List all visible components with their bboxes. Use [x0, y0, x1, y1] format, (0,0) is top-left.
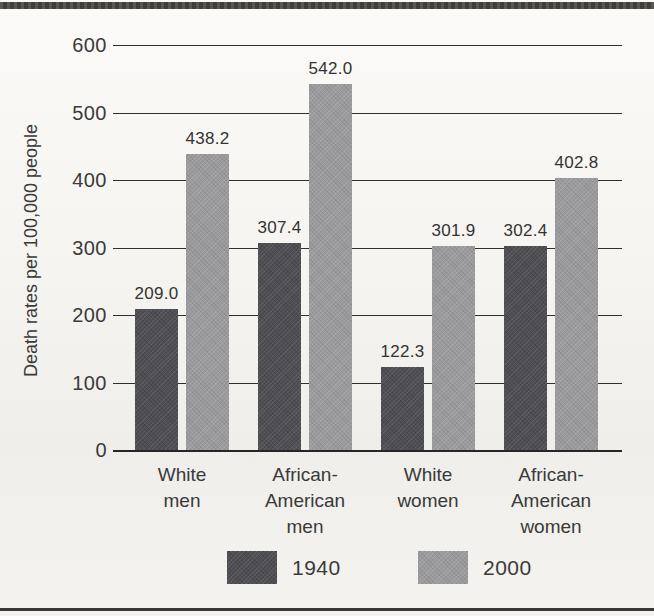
x-category-label-3: African-Americanwomen	[481, 462, 621, 540]
x-category-label-line: African-	[235, 462, 375, 488]
x-category-label-line: White	[112, 462, 252, 488]
y-tick-label-300: 300	[45, 237, 107, 260]
legend-item-1940: 1940	[227, 551, 341, 584]
bar-1940-white-men	[135, 309, 178, 450]
x-axis-baseline	[113, 450, 622, 452]
bar-2000-white-men	[186, 154, 229, 450]
gridline-600	[113, 45, 622, 46]
x-category-label-1: African-Americanmen	[235, 462, 375, 540]
scanned-chart-page: Death rates per 100,000 people 010020030…	[0, 0, 654, 616]
x-category-label-line: women	[481, 514, 621, 540]
y-tick-label-500: 500	[45, 102, 107, 125]
bar-2000-african-american-men	[309, 84, 352, 450]
bar-1940-african-american-women	[504, 246, 547, 450]
value-label-1940-2: 122.3	[365, 342, 440, 362]
value-label-2000-2: 301.9	[416, 221, 491, 241]
x-category-label-line: White	[358, 462, 498, 488]
x-category-label-line: American	[481, 488, 621, 514]
x-category-label-line: African-	[481, 462, 621, 488]
x-category-label-line: men	[112, 488, 252, 514]
value-label-1940-3: 302.4	[488, 221, 563, 241]
legend-swatch-2000	[418, 551, 468, 584]
legend-item-2000: 2000	[418, 551, 532, 584]
x-category-label-2: Whitewomen	[358, 462, 498, 514]
x-category-label-line: American	[235, 488, 375, 514]
plot-area: Death rates per 100,000 people 010020030…	[0, 0, 654, 616]
y-axis-title: Death rates per 100,000 people	[21, 121, 42, 381]
bar-1940-white-women	[381, 367, 424, 450]
x-category-label-0: Whitemen	[112, 462, 252, 514]
value-label-2000-1: 542.0	[293, 59, 368, 79]
y-tick-label-100: 100	[45, 372, 107, 395]
y-tick-label-0: 0	[45, 439, 107, 462]
legend-label-1940: 1940	[292, 556, 341, 580]
y-tick-label-200: 200	[45, 304, 107, 327]
bottom-divider-rule	[0, 608, 654, 611]
y-tick-label-400: 400	[45, 169, 107, 192]
legend-swatch-1940	[227, 551, 277, 584]
bar-1940-african-american-men	[258, 243, 301, 450]
x-category-label-line: women	[358, 488, 498, 514]
value-label-2000-0: 438.2	[170, 129, 245, 149]
value-label-2000-3: 402.8	[539, 153, 614, 173]
gridline-500	[113, 113, 622, 114]
value-label-1940-0: 209.0	[119, 284, 194, 304]
x-category-label-line: men	[235, 514, 375, 540]
bar-2000-african-american-women	[555, 178, 598, 450]
value-label-1940-1: 307.4	[242, 218, 317, 238]
bar-2000-white-women	[432, 246, 475, 450]
legend-label-2000: 2000	[483, 556, 532, 580]
y-tick-label-600: 600	[45, 34, 107, 57]
